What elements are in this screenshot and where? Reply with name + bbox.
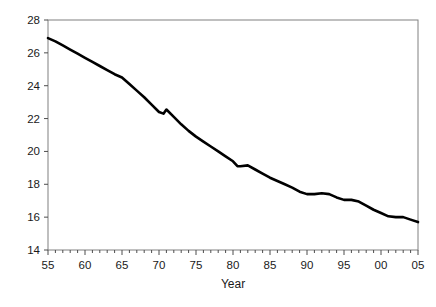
x-axis-title: Year (221, 277, 245, 291)
data-line (48, 38, 418, 222)
plot-frame (48, 20, 418, 250)
x-tick-label: 60 (79, 259, 92, 271)
chart-figure: 1416182022242628 5560657075808590950005 … (0, 0, 436, 307)
y-tick-label: 14 (27, 244, 40, 256)
data-series-group (48, 38, 418, 222)
x-tick-label: 65 (116, 259, 129, 271)
x-tick-label: 80 (227, 259, 240, 271)
y-tick-label: 26 (27, 47, 40, 59)
line-chart: 1416182022242628 5560657075808590950005 … (0, 0, 436, 307)
x-tick-label: 00 (375, 259, 388, 271)
y-tick-label: 28 (27, 14, 40, 26)
y-axis-ticks: 1416182022242628 (27, 14, 48, 256)
y-tick-label: 22 (27, 113, 40, 125)
y-tick-label: 16 (27, 211, 40, 223)
x-tick-label: 05 (412, 259, 425, 271)
x-tick-label: 55 (42, 259, 55, 271)
x-tick-label: 70 (153, 259, 166, 271)
x-tick-label: 95 (338, 259, 351, 271)
y-tick-label: 18 (27, 178, 40, 190)
x-tick-label: 85 (264, 259, 277, 271)
x-tick-label: 75 (190, 259, 203, 271)
x-tick-label: 90 (301, 259, 314, 271)
y-tick-label: 20 (27, 145, 40, 157)
plot-border (48, 20, 418, 250)
y-tick-label: 24 (27, 80, 40, 92)
x-axis-ticks: 5560657075808590950005 (42, 250, 425, 271)
